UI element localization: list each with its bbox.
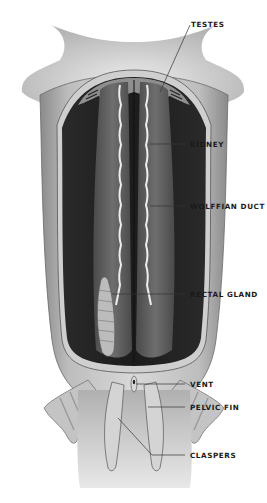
label-vent: VENT [190,380,214,389]
anatomy-illustration [0,0,267,503]
label-rectal-gland: RECTAL GLAND [190,290,258,299]
label-claspers: CLASPERS [190,451,236,460]
label-pelvic-fin: PELVIC FIN [190,403,239,412]
label-wolffian-duct: WOLFFIAN DUCT [190,202,265,211]
label-kidney: KIDNEY [190,140,224,149]
kidney-right [136,82,175,358]
shark-anatomy-diagram: TESTES KIDNEY WOLFFIAN DUCT RECTAL GLAND… [0,0,267,503]
label-testes: TESTES [191,20,225,29]
tail-stalk [78,390,192,488]
